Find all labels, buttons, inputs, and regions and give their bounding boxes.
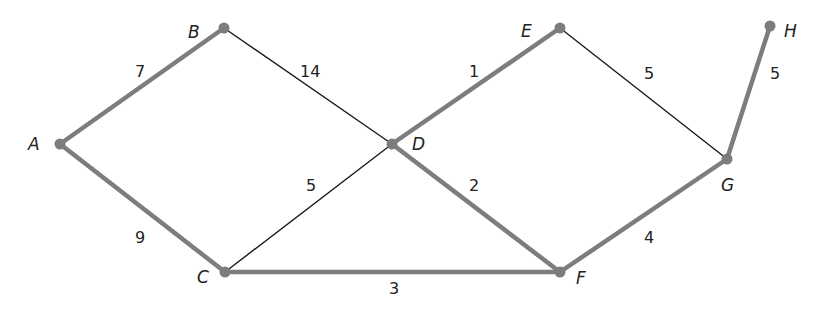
node-label-b: B [188,22,200,42]
node-label-f: F [576,268,586,288]
edge-g-h [727,26,770,159]
node-label-g: G [721,175,734,195]
edge-weight-f-g: 4 [644,228,654,247]
node-f [555,267,566,278]
edge-d-e [392,28,560,144]
edge-weight-c-d: 5 [306,176,316,195]
edge-a-b [60,28,224,144]
edge-e-g [560,28,727,159]
node-a [55,139,66,150]
node-label-e: E [521,21,532,41]
edge-weight-e-g: 5 [644,64,654,83]
edge-weight-a-c: 9 [135,228,145,247]
node-b [219,23,230,34]
edge-weight-d-e: 1 [469,62,479,81]
edge-b-d [224,28,392,144]
node-label-h: H [784,21,797,41]
edge-weight-b-d: 14 [300,62,320,81]
edge-a-c [60,144,225,272]
node-c [220,267,231,278]
node-label-c: C [197,267,209,287]
node-g [722,154,733,165]
edge-weight-a-b: 7 [135,62,145,81]
edge-c-d [225,144,392,272]
edge-weight-d-f: 2 [469,176,479,195]
node-h [765,21,776,32]
node-e [555,23,566,34]
edge-weight-c-f: 3 [389,279,399,298]
weighted-graph-diagram: 79145312545ABCDEFGH [0,0,818,324]
node-d [387,139,398,150]
edge-d-f [392,144,560,272]
edge-weight-g-h: 5 [770,64,780,83]
edge-f-g [560,159,727,272]
node-label-a: A [27,134,40,154]
node-label-d: D [412,134,425,154]
